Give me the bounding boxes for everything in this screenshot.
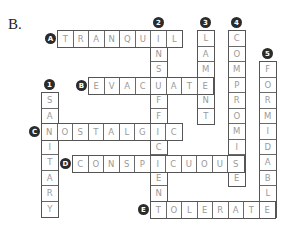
letter-cell: A xyxy=(229,202,245,218)
letter-cell: T xyxy=(58,31,74,47)
letter-cell: E xyxy=(151,171,167,187)
letter-cell: M xyxy=(229,124,245,140)
letter-cell: A xyxy=(104,124,120,140)
clue-number-badge: 5 xyxy=(262,48,273,59)
letter-cell: A xyxy=(42,109,58,125)
letter-cell: U xyxy=(213,156,229,172)
letter-cell: R xyxy=(213,202,229,218)
letter-cell: L xyxy=(260,186,276,202)
letter-cell: D xyxy=(260,140,276,156)
letter-cell: F xyxy=(151,109,167,125)
letter-cell: U xyxy=(182,156,198,172)
letter-cell: I xyxy=(151,156,167,172)
letter-cell: L xyxy=(198,31,214,47)
letter-cell: S xyxy=(42,93,58,109)
letter-cell: N xyxy=(198,93,214,109)
letter-cell: C xyxy=(136,78,152,94)
clue-number-badge: 3 xyxy=(200,17,211,28)
letter-cell: I xyxy=(151,124,167,140)
letter-cell: E xyxy=(198,78,214,94)
letter-cell: N xyxy=(42,124,58,140)
letter-cell: R xyxy=(74,31,90,47)
letter-cell: C xyxy=(166,156,182,172)
letter-cell: L xyxy=(167,31,183,47)
letter-cell: O xyxy=(167,202,183,218)
letter-cell: M xyxy=(198,62,214,78)
letter-cell: F xyxy=(151,93,167,109)
letter-cell: N xyxy=(151,47,167,63)
letter-cell: P xyxy=(135,156,151,172)
letter-cell: E xyxy=(260,202,276,218)
letter-cell: N xyxy=(151,186,167,202)
letter-cell: M xyxy=(229,62,245,78)
letter-cell: S xyxy=(151,62,167,78)
letter-cell: I xyxy=(42,140,58,156)
letter-cell: T xyxy=(151,202,167,218)
word-evacuate: EVACUATE xyxy=(88,77,214,95)
letter-cell: F xyxy=(260,62,276,78)
letter-cell: N xyxy=(104,156,120,172)
letter-cell: Q xyxy=(120,31,136,47)
letter-cell: O xyxy=(229,47,245,63)
letter-cell: A xyxy=(198,47,214,63)
clue-number-badge: B xyxy=(76,80,87,91)
letter-cell: B xyxy=(260,171,276,187)
letter-cell: O xyxy=(229,109,245,125)
word-tolerate: TOLERATE xyxy=(150,201,276,219)
letter-cell: E xyxy=(229,171,245,187)
clue-number-badge: D xyxy=(60,158,71,169)
letter-cell: I xyxy=(229,140,245,156)
letter-cell: N xyxy=(105,31,121,47)
letter-cell: A xyxy=(42,171,58,187)
letter-cell: I xyxy=(151,31,167,47)
letter-cell: U xyxy=(136,31,152,47)
letter-cell: I xyxy=(260,124,276,140)
letter-cell: O xyxy=(89,156,105,172)
letter-cell: T xyxy=(89,124,105,140)
letter-cell: C xyxy=(151,140,167,156)
letter-cell: A xyxy=(120,78,136,94)
letter-cell: R xyxy=(42,186,58,202)
word-tranquil: TRANQUIL xyxy=(57,30,183,48)
letter-cell: A xyxy=(89,31,105,47)
clue-number-badge: E xyxy=(138,204,149,215)
letter-cell: U xyxy=(151,78,167,94)
letter-cell: T xyxy=(198,109,214,125)
clue-number-badge: C xyxy=(29,126,40,137)
letter-cell: M xyxy=(260,109,276,125)
letter-cell: C xyxy=(166,124,182,140)
letter-cell: S xyxy=(228,156,244,172)
letter-cell: E xyxy=(89,78,105,94)
word-sanitary: SANITARY xyxy=(41,92,59,218)
letter-cell: O xyxy=(58,124,74,140)
word-formidable: FORMIDABLE xyxy=(259,61,277,218)
letter-cell: Y xyxy=(42,202,58,218)
word-conspicuous: CONSPICUOUS xyxy=(72,155,245,173)
letter-cell: C xyxy=(229,31,245,47)
letter-cell: A xyxy=(260,155,276,171)
word-nostalgic: NOSTALGIC xyxy=(41,123,183,141)
letter-cell: L xyxy=(182,202,198,218)
letter-cell: S xyxy=(120,156,136,172)
letter-cell: L xyxy=(120,124,136,140)
letter-cell: V xyxy=(105,78,121,94)
letter-cell: T xyxy=(182,78,198,94)
letter-cell: A xyxy=(167,78,183,94)
letter-cell: O xyxy=(197,156,213,172)
crossword-grid: INSUFFICIENT2LAMENT3COMPROMISE4FORMIDABL… xyxy=(0,0,291,234)
letter-cell: C xyxy=(73,156,89,172)
clue-number-badge: A xyxy=(45,33,56,44)
letter-cell: E xyxy=(198,202,214,218)
letter-cell: P xyxy=(229,78,245,94)
letter-cell: R xyxy=(260,93,276,109)
letter-cell: G xyxy=(135,124,151,140)
letter-cell: O xyxy=(260,78,276,94)
letter-cell: T xyxy=(42,155,58,171)
letter-cell: R xyxy=(229,93,245,109)
clue-number-badge: 4 xyxy=(231,17,242,28)
letter-cell: T xyxy=(244,202,260,218)
clue-number-badge: 1 xyxy=(44,79,55,90)
letter-cell: S xyxy=(73,124,89,140)
clue-number-badge: 2 xyxy=(153,17,164,28)
